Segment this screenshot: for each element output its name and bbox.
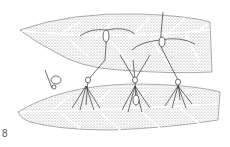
figure-number: 8	[2, 128, 8, 139]
upper-leaf	[20, 14, 212, 73]
illustration	[0, 0, 230, 147]
